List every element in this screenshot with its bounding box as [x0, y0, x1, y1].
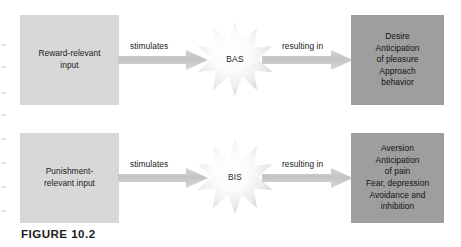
- scan-fleck: [1, 66, 6, 68]
- outcome-box-label: Aversion Anticipation of pain Fear, depr…: [366, 143, 429, 213]
- input-box-reward-relevant: Reward-relevant input: [20, 15, 119, 105]
- outcome-box-bis: Aversion Anticipation of pain Fear, depr…: [351, 133, 444, 223]
- scan-fleck: [1, 44, 6, 46]
- arrow-bis-to-outcome: [262, 167, 353, 189]
- scan-fleck: [1, 162, 6, 164]
- scan-fleck: [1, 210, 6, 212]
- arrow-bas-to-outcome: [262, 49, 353, 71]
- outcome-box-bas: Desire Anticipation of pleasure Approach…: [351, 15, 444, 105]
- outcome-box-label: Desire Anticipation of pleasure Approach…: [376, 31, 420, 89]
- scan-fleck: [1, 114, 6, 116]
- figure-caption: FIGURE 10.2: [21, 227, 96, 240]
- scan-fleck: [1, 186, 6, 188]
- scan-fleck: [1, 138, 6, 140]
- input-box-label: Reward-relevant input: [38, 48, 100, 71]
- input-box-punishment-relevant: Punishment- relevant input: [20, 133, 119, 223]
- arrow-punishment-to-bis: [118, 167, 208, 189]
- arrow-reward-to-bas: [118, 49, 208, 71]
- figure-canvas: Reward-relevant input stimulates: [0, 0, 461, 247]
- input-box-label: Punishment- relevant input: [44, 166, 95, 189]
- scan-edge-artifacts: [0, 40, 8, 225]
- scan-fleck: [1, 92, 6, 94]
